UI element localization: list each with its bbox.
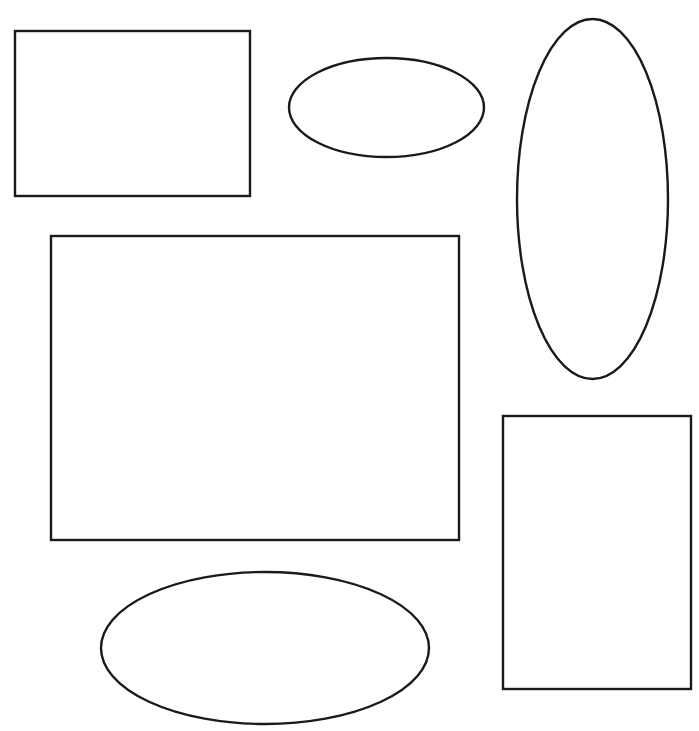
shape-rect-bottom-right[interactable] xyxy=(503,416,691,689)
shape-ellipse-top-middle[interactable] xyxy=(289,58,484,157)
shape-rect-center-large[interactable] xyxy=(51,236,459,540)
shapes-canvas xyxy=(0,0,699,731)
shape-ellipse-bottom[interactable] xyxy=(101,572,429,724)
shape-canvas-svg xyxy=(0,0,699,731)
shape-ellipse-right-tall[interactable] xyxy=(517,19,668,379)
shape-rect-top-left[interactable] xyxy=(15,31,250,196)
